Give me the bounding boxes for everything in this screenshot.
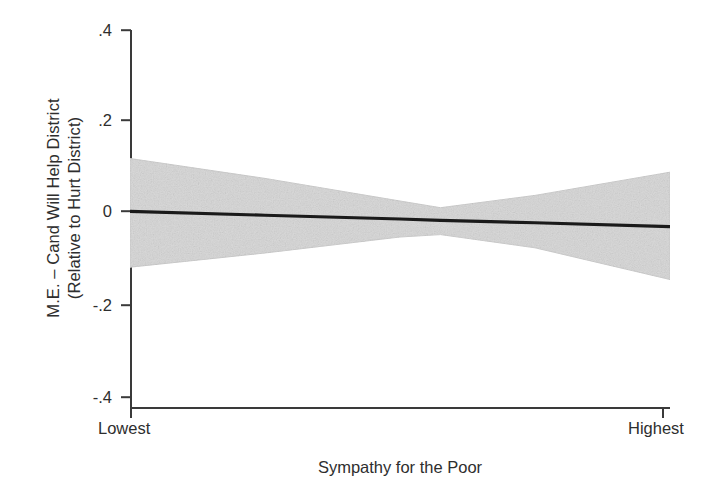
x-tick-mark-lowest xyxy=(130,408,132,418)
y-tick-label-neg0p4: -.4 xyxy=(64,388,112,407)
y-tick-label-0p4: .4 xyxy=(64,21,112,40)
plot-area xyxy=(130,30,670,408)
y-axis-title-line-1: M.E. – Cand Will Help District xyxy=(43,98,64,317)
x-axis-title: Sympathy for the Poor xyxy=(130,458,670,477)
x-tick-mark-highest xyxy=(662,408,664,418)
x-category-label-lowest: Lowest xyxy=(98,419,150,438)
y-tick-label-0p2: .2 xyxy=(64,111,112,130)
x-category-label-highest: Highest xyxy=(628,419,684,438)
y-tick-label-0: 0 xyxy=(64,202,112,221)
chart-figure: M.E. – Cand Will Help District (Relative… xyxy=(0,0,717,495)
y-tick-label-neg0p2: -.2 xyxy=(64,296,112,315)
plot-svg xyxy=(130,30,670,408)
